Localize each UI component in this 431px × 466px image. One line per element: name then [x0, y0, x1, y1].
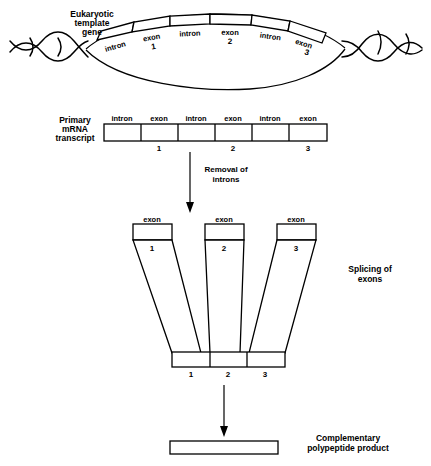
translation-arrow	[220, 385, 228, 437]
splicing-label-line1: Splicing of	[348, 264, 392, 274]
spliced-segment-number-1: 1	[189, 370, 194, 379]
splicing-exon-2-box	[205, 224, 244, 240]
transcript-label-exon-2: exon	[224, 114, 242, 123]
splicing-diagram-page: intron exon 1 intron exon 2 intron exon …	[0, 0, 431, 466]
removal-label-line2: introns	[212, 175, 240, 184]
transcript-label-exon-1: exon	[150, 114, 168, 123]
splicing-exon-1-stem	[133, 240, 201, 353]
gene-title-line3: gene	[82, 27, 102, 37]
gene-segment-box-3	[170, 14, 210, 26]
splicing-exon-2-stem	[205, 240, 244, 353]
transcript-number-exon-1: 1	[157, 144, 162, 153]
gene-number-exon-2: 2	[228, 37, 233, 46]
splicing-exon-3-box	[277, 224, 316, 240]
gene-number-exon-3: 3	[303, 48, 310, 58]
splicing-exon-3	[249, 224, 316, 353]
transcript-number-exon-2: 2	[231, 144, 236, 153]
splicing-exon-3-number: 3	[294, 244, 299, 253]
splicing-exon-2-number: 2	[222, 244, 227, 253]
transcript-label-exon-3: exon	[299, 114, 317, 123]
gene-label-intron-1: intron	[104, 39, 127, 54]
transcript-label-intron-2: intron	[185, 114, 207, 123]
splicing-exon-3-stem	[249, 240, 316, 353]
spliced-mrna-bar: 1 2 3	[172, 352, 285, 379]
removal-of-introns-arrow	[186, 152, 194, 213]
polypeptide-product-bar	[170, 441, 278, 454]
splicing-exon-2-label: exon	[215, 215, 233, 224]
gene-segment-box-2	[132, 16, 170, 32]
dna-helix-left	[10, 32, 88, 61]
splicing-exon-1-label: exon	[143, 215, 161, 224]
gene-label-intron-2: intron	[179, 28, 201, 38]
polypeptide-product-label: Complementary polypeptide product	[307, 433, 389, 453]
splicing-funnel: exon 1 exon 2 exon 3	[133, 215, 316, 353]
primary-transcript-bar	[104, 124, 327, 141]
product-label-line1: Complementary	[316, 433, 381, 443]
transcript-label-intron-3: intron	[259, 114, 281, 123]
splicing-exon-3-label: exon	[287, 215, 305, 224]
gene-label-intron-3: intron	[259, 31, 282, 43]
removal-of-introns-label: Removal of introns	[204, 165, 247, 184]
product-label-line2: polypeptide product	[307, 443, 389, 453]
gene-arc-segments	[97, 14, 326, 43]
gene-label-exon-2: exon	[221, 28, 239, 37]
splicing-exon-1-number: 1	[150, 244, 155, 253]
transcript-label-line3: transcript	[55, 133, 94, 143]
spliced-segment-number-2: 2	[226, 370, 231, 379]
diagram-canvas: intron exon 1 intron exon 2 intron exon …	[0, 0, 431, 466]
splicing-exon-1	[133, 224, 201, 353]
gene-arc-labels: intron exon 1 intron exon 2 intron exon …	[104, 28, 314, 58]
gene-segment-box-5	[251, 15, 290, 31]
spliced-segment-number-3: 3	[263, 370, 268, 379]
splicing-side-label: Splicing of exons	[348, 264, 392, 284]
dna-helix-right	[342, 31, 422, 61]
splicing-label-line2: exons	[358, 274, 383, 284]
gene-segment-box-4	[210, 14, 252, 25]
removal-label-line1: Removal of	[204, 165, 247, 174]
transcript-number-exon-3: 3	[306, 144, 311, 153]
primary-transcript-label: Primary mRNA transcript	[55, 115, 94, 143]
transcript-label-intron-1: intron	[111, 114, 133, 123]
gene-number-exon-1: 1	[151, 42, 157, 52]
splicing-exon-1-box	[133, 224, 172, 240]
